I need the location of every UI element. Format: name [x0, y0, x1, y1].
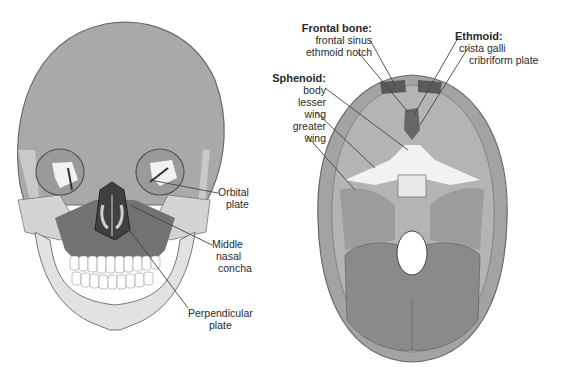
label-wing: wing	[270, 132, 326, 144]
label-frontal-bone: Frontal bone: frontal sinus ethmoid notc…	[292, 22, 372, 58]
label-line: plate	[188, 319, 253, 331]
label-line: nasal	[212, 250, 252, 262]
label-wing: wing	[270, 108, 326, 120]
label-body: body	[270, 84, 326, 96]
skull-anatomy-figure: Orbital plate Middle nasal concha Perpen…	[0, 0, 562, 367]
label-lesser: lesser	[270, 96, 326, 108]
label-ethmoid-notch: ethmoid notch	[292, 46, 372, 58]
anterior-skull-drawing	[18, 22, 225, 330]
label-middle-nasal-concha: Middle nasal concha	[212, 238, 252, 274]
label-crista-galli: crista galli	[455, 42, 538, 54]
label-perpendicular-plate: Perpendicular plate	[188, 307, 253, 331]
label-ethmoid: Ethmoid: crista galli cribriform plate	[455, 30, 538, 66]
label-greater: greater	[270, 120, 326, 132]
label-cribriform-plate: cribriform plate	[455, 54, 538, 66]
cranial-floor-drawing	[306, 38, 507, 362]
label-line: Perpendicular	[188, 307, 253, 319]
label-line: concha	[212, 262, 252, 274]
label-header: Sphenoid:	[270, 72, 326, 84]
label-line: Orbital	[218, 186, 249, 198]
label-header: Ethmoid:	[455, 30, 538, 42]
label-frontal-sinus: frontal sinus	[292, 34, 372, 46]
label-line: Middle	[212, 238, 252, 250]
label-header: Frontal bone:	[292, 22, 372, 34]
label-sphenoid: Sphenoid: body lesser wing greater wing	[270, 72, 326, 144]
label-line: plate	[218, 198, 249, 210]
label-orbital-plate: Orbital plate	[218, 186, 249, 210]
